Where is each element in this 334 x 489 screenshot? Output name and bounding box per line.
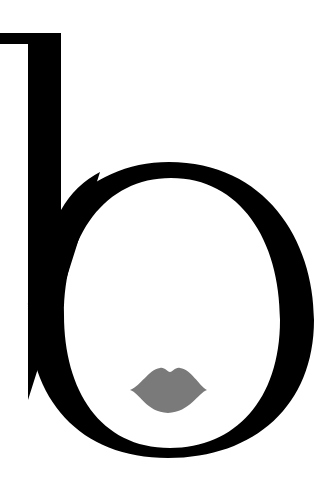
lips-icon bbox=[130, 368, 207, 413]
letter-b-with-lips-icon bbox=[0, 0, 334, 489]
bowl-shape bbox=[28, 162, 314, 458]
brand-logo: b bbox=[0, 0, 334, 489]
